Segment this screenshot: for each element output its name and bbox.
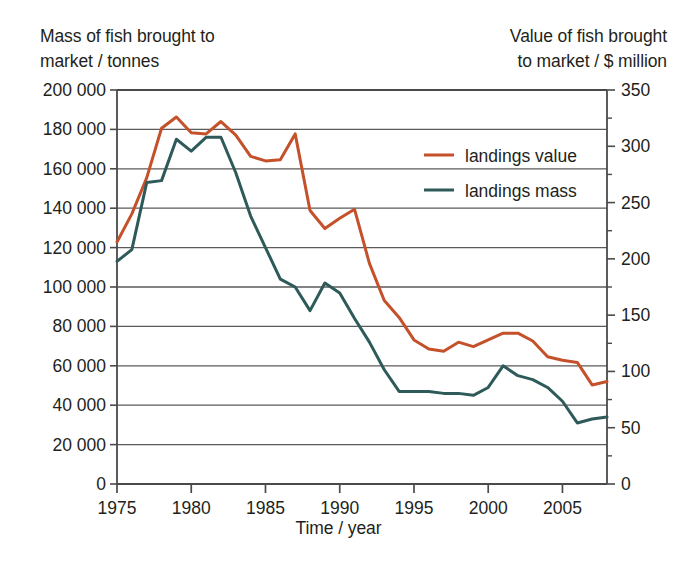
y-axis-right-tick-label: 150 bbox=[621, 305, 650, 326]
y-axis-right-ticks bbox=[607, 90, 615, 484]
y-axis-left-tick-label: 160 000 bbox=[43, 158, 106, 179]
y-axis-left-tick-label: 180 000 bbox=[43, 119, 106, 140]
y-axis-right-title: Value of fish brought to market / $ mill… bbox=[510, 24, 667, 74]
legend-label: landings mass bbox=[465, 181, 577, 201]
x-axis-tick-label: 1995 bbox=[395, 498, 434, 519]
x-axis-tick-label: 1985 bbox=[246, 498, 285, 519]
y-axis-left-tick-label: 0 bbox=[96, 474, 106, 495]
y-axis-right-tick-label: 0 bbox=[621, 474, 631, 495]
y-axis-right-tick-label: 300 bbox=[621, 136, 650, 157]
y-axis-left-title: Mass of fish brought to market / tonnes bbox=[40, 24, 215, 74]
y-axis-left-tick-label: 140 000 bbox=[43, 198, 106, 219]
y-axis-right-tick-label: 200 bbox=[621, 248, 650, 269]
x-axis-title: Time / year bbox=[0, 516, 677, 541]
y-axis-left-tick-label: 20 000 bbox=[52, 434, 106, 455]
legend-label: landings value bbox=[465, 146, 577, 166]
x-axis-tick-label: 2000 bbox=[469, 498, 508, 519]
y-axis-right-tick-label: 250 bbox=[621, 192, 650, 213]
y-axis-left-ticks bbox=[110, 90, 117, 484]
y-axis-right-tick-label: 350 bbox=[621, 80, 650, 101]
x-axis-tick-label: 1975 bbox=[98, 498, 137, 519]
y-axis-left-tick-label: 200 000 bbox=[43, 80, 106, 101]
y-axis-left-tick-label: 60 000 bbox=[52, 355, 106, 376]
chart-figure: Mass of fish brought to market / tonnes … bbox=[0, 0, 677, 572]
y-axis-left-tick-label: 40 000 bbox=[52, 395, 106, 416]
x-axis-ticks bbox=[117, 484, 562, 493]
x-axis-tick-label: 1980 bbox=[172, 498, 211, 519]
y-axis-left-tick-label: 80 000 bbox=[52, 316, 106, 337]
x-axis-tick-label: 2005 bbox=[543, 498, 582, 519]
y-axis-left-tick-label: 120 000 bbox=[43, 237, 106, 258]
chart-legend: landings valuelandings mass bbox=[424, 146, 577, 201]
x-axis-tick-label: 1990 bbox=[320, 498, 359, 519]
y-axis-right-tick-label: 100 bbox=[621, 361, 650, 382]
y-axis-left-tick-label: 100 000 bbox=[43, 277, 106, 298]
y-axis-right-tick-label: 50 bbox=[621, 417, 640, 438]
